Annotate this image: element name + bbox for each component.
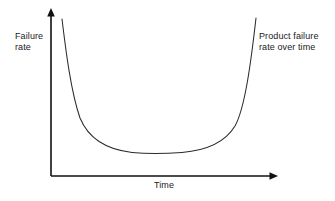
y-axis-label: Failure rate [15, 31, 43, 52]
bathtub-curve-chart: Failure rate Product failure rate over t… [0, 0, 335, 201]
chart-annotation: Product failure rate over time [259, 31, 319, 52]
y-axis-arrowhead-icon [47, 8, 55, 17]
x-axis-arrowhead-icon [270, 172, 279, 180]
failure-rate-curve [62, 18, 256, 153]
x-axis-label: Time [51, 180, 277, 191]
